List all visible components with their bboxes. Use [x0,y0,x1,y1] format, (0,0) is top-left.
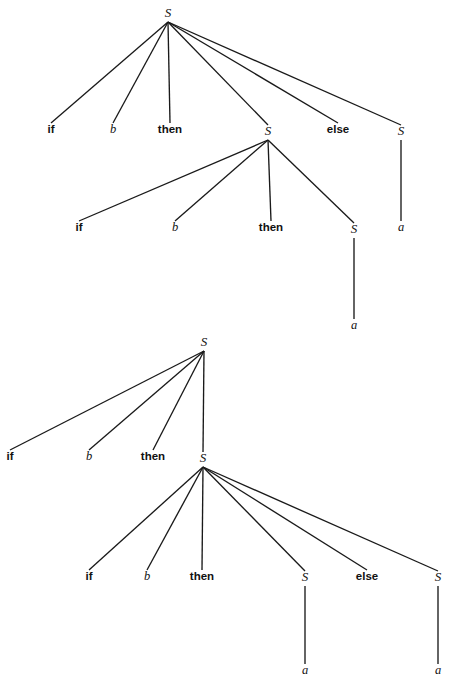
tree-edge [113,22,168,123]
tree-edge [147,467,203,570]
tree-edge [89,467,203,570]
tree-edge [203,467,438,571]
tree-node-terminal: a [398,220,404,234]
tree-node-nonterminal: S [265,123,272,138]
tree-node-terminal: if [6,450,13,462]
tree-edge [202,467,203,570]
tree-edge [51,22,168,123]
tree-node-terminal: b [86,449,92,463]
tree-node-terminal: b [110,122,116,136]
tree-node-terminal: a [351,318,357,332]
tree-node-terminal: then [190,570,214,582]
tree-node-terminal: if [47,123,54,135]
tree-edge [268,140,271,221]
tree-edge [203,351,204,452]
tree-node-nonterminal: S [200,450,207,465]
tree-edge [168,22,338,123]
tree-node-terminal: then [259,221,283,233]
tree-edge [168,22,401,125]
tree-node-nonterminal: S [302,569,309,584]
tree-edge [168,22,268,125]
tree-node-terminal: else [327,123,349,135]
tree-node-terminal: if [85,570,92,582]
tree-node-terminal: a [302,663,308,677]
tree-edge [268,140,354,223]
tree-node-nonterminal: S [398,123,405,138]
tree-node-terminal: then [141,450,165,462]
tree-node-nonterminal: S [165,5,172,20]
tree-node-nonterminal: S [201,334,208,349]
tree-edge [168,22,170,123]
tree-node-terminal: if [75,221,82,233]
tree-edge [79,140,268,221]
tree-node-nonterminal: S [351,221,358,236]
tree-node-terminal: then [158,123,182,135]
tree-node-nonterminal: S [435,569,442,584]
tree-node-terminal: b [172,220,178,234]
parse-tree-figure: SifbthenSelseSaifbthenSaSifbthenSifbthen… [0,0,449,690]
tree-node-terminal: b [144,569,150,583]
tree-edge [203,467,305,571]
tree-node-terminal: a [435,663,441,677]
tree-edge [153,351,204,450]
tree-edge [175,140,268,221]
parse-trees-canvas: SifbthenSelseSaifbthenSaSifbthenSifbthen… [0,0,449,690]
tree-node-terminal: else [356,570,378,582]
tree-edge [203,467,367,570]
tree-edges-layer [10,22,438,664]
